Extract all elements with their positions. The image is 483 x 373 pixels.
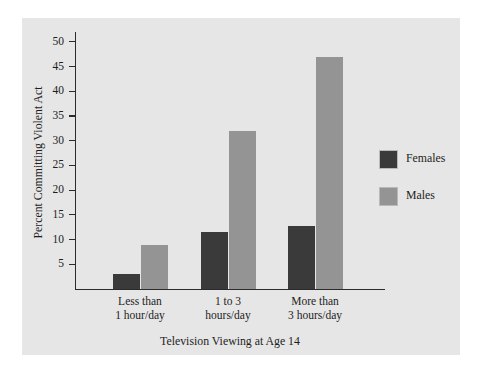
bar [141,245,168,289]
chart-figure: 5101520253035404550 Percent Committing V… [0,0,483,373]
legend-label-males: Males [406,188,435,203]
x-axis-title: Television Viewing at Age 14 [75,334,385,349]
bar [316,57,343,289]
bar [201,232,228,289]
x-axis-category-line: 3 hours/day [255,308,375,322]
x-axis-category-line: More than [255,294,375,308]
legend-label-females: Females [406,151,445,166]
bar [229,131,256,289]
x-axis-category-label: More than3 hours/day [255,294,375,323]
bar [288,226,315,289]
legend-swatch-icon-females [379,150,398,169]
legend-swatch-icon-males [379,187,398,206]
bar [113,274,140,289]
